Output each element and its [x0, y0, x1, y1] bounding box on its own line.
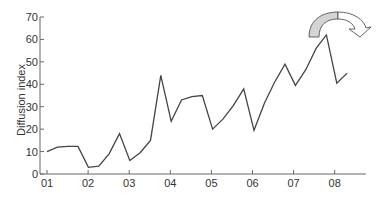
line-chart: 010203040506070 0102030405060708 Diffusi… — [0, 0, 383, 199]
y-tick-label: 30 — [26, 101, 38, 113]
x-tick-label: 01 — [41, 177, 53, 189]
x-tick-label: 07 — [287, 177, 299, 189]
y-tick-label: 20 — [26, 123, 38, 135]
y-tick-label: 40 — [26, 78, 38, 90]
y-axis-title: Diffusion index — [15, 64, 27, 136]
y-tick-label: 10 — [26, 146, 38, 158]
y-tick-label: 50 — [26, 56, 38, 68]
x-tick-label: 04 — [164, 177, 176, 189]
x-tick-label: 03 — [123, 177, 135, 189]
y-tick-label: 60 — [26, 33, 38, 45]
diffusion-index-line — [47, 35, 347, 167]
y-axis: 010203040506070 — [26, 11, 44, 180]
y-tick-label: 70 — [26, 11, 38, 23]
curved-arrow-icon — [309, 12, 371, 37]
y-tick-label: 0 — [32, 168, 38, 180]
x-tick-label: 06 — [246, 177, 258, 189]
x-tick-label: 05 — [205, 177, 217, 189]
x-axis: 0102030405060708 — [40, 170, 366, 189]
x-tick-label: 02 — [82, 177, 94, 189]
x-tick-label: 08 — [329, 177, 341, 189]
